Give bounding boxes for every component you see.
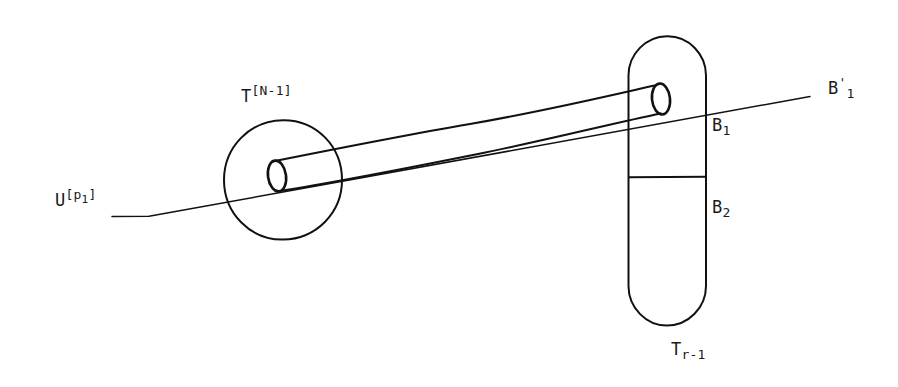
label-outgoing-line-subscript: 1: [847, 86, 855, 101]
label-outgoing-line-base: B: [828, 78, 839, 98]
label-incoming-line-sup-close: ]: [88, 187, 96, 202]
figure-root: T[N-1] U[p1] B1 B2 B'1 Tr-1: [0, 0, 898, 387]
label-tube-body-base: T: [241, 86, 252, 106]
canvas-background: [0, 0, 898, 387]
label-incoming-line-sup-open: [p: [66, 187, 82, 202]
label-capsule: Tr-1: [671, 341, 706, 358]
label-upper-region-subscript: 1: [723, 123, 731, 138]
label-incoming-line-superscript: [p1]: [66, 187, 97, 202]
label-lower-region: B2: [712, 199, 731, 216]
label-tube-body: T[N-1]: [241, 88, 292, 105]
label-incoming-line: U[p1]: [55, 192, 96, 209]
label-incoming-line-base: U: [55, 190, 66, 210]
label-lower-region-subscript: 2: [723, 205, 731, 220]
label-upper-region: B1: [712, 117, 731, 134]
label-outgoing-line: B'1: [828, 80, 855, 97]
label-outgoing-line-prime: ': [839, 75, 847, 90]
label-lower-region-base: B: [712, 197, 723, 217]
label-capsule-subscript: r-1: [682, 347, 706, 362]
label-tube-body-superscript: [N-1]: [252, 83, 292, 98]
diagram-canvas: [0, 0, 898, 387]
label-upper-region-base: B: [712, 115, 723, 135]
capsule-divider-line: [629, 177, 706, 178]
label-capsule-base: T: [671, 339, 682, 359]
